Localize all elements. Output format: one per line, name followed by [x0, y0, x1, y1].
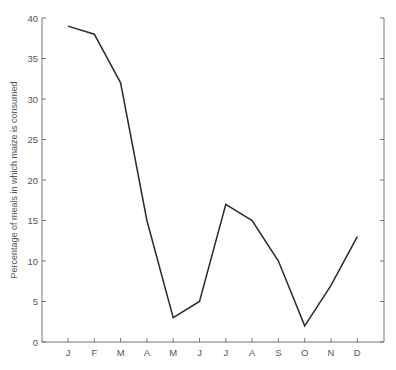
y-tick-label: 30: [27, 94, 38, 105]
y-axis-title: Percentage of meals in which maize is co…: [9, 81, 19, 278]
y-tick-label: 35: [27, 53, 38, 64]
data-line: [68, 26, 357, 326]
x-axis-ticks: JFMAMJJASOND: [66, 338, 361, 358]
y-tick-label: 40: [27, 13, 38, 24]
x-tick-label: F: [91, 347, 97, 358]
y-tick-label: 15: [27, 215, 38, 226]
line-chart: Percentage of meals in which maize is co…: [0, 0, 396, 370]
x-tick-label: N: [328, 347, 335, 358]
x-tick-label: M: [117, 347, 125, 358]
y-axis-label: Percentage of meals in which maize is co…: [9, 81, 19, 278]
y-tick-label: 25: [27, 134, 38, 145]
y-axis-ticks-left: 0510152025303540: [27, 13, 46, 348]
x-tick-label: J: [197, 347, 202, 358]
y-tick-label: 20: [27, 175, 38, 186]
x-tick-label: J: [66, 347, 71, 358]
x-tick-label: O: [301, 347, 308, 358]
x-tick-label: D: [354, 347, 361, 358]
x-tick-label: A: [249, 347, 256, 358]
y-axis-ticks-right: [380, 18, 384, 342]
x-tick-label: A: [144, 347, 151, 358]
x-tick-label: S: [275, 347, 281, 358]
x-tick-label: M: [169, 347, 177, 358]
x-tick-label: J: [223, 347, 228, 358]
y-tick-label: 0: [33, 337, 38, 348]
y-tick-label: 5: [33, 296, 38, 307]
y-tick-label: 10: [27, 256, 38, 267]
